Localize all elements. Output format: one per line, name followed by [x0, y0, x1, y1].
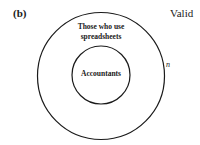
- outer-set-label: Those who use spreadsheets: [60, 22, 142, 42]
- verdict-label: Valid: [170, 7, 193, 19]
- inner-set-label: Accountants: [72, 69, 130, 78]
- outer-set-label-line2: spreadsheets: [60, 32, 142, 42]
- outer-circle-tag: n: [166, 60, 170, 69]
- panel-label: (b): [13, 7, 26, 19]
- outer-set-label-line1: Those who use: [60, 22, 142, 32]
